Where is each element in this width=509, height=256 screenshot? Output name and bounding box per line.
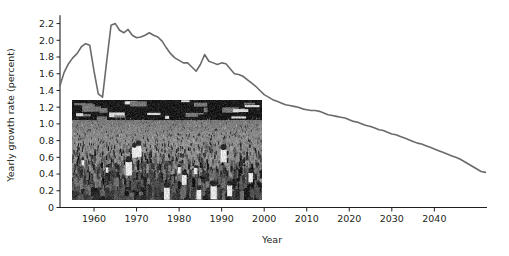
x-axis: 196019701980199020002010202020302040 xyxy=(60,208,487,224)
x-axis-tick-label: 2020 xyxy=(337,213,361,224)
x-axis-tick-label: 1970 xyxy=(124,213,148,224)
x-axis-tick-label: 2040 xyxy=(422,213,446,224)
x-axis-tick-label: 2030 xyxy=(380,213,404,224)
y-axis-tick-label: 0.6 xyxy=(39,152,54,163)
x-axis-tick-label: 2010 xyxy=(295,213,319,224)
crowd-photograph xyxy=(72,100,262,200)
y-axis-tick-label: 0.2 xyxy=(39,185,54,196)
x-axis-tick-label: 1980 xyxy=(167,213,191,224)
x-axis-tick-label: 1960 xyxy=(82,213,106,224)
y-axis-tick-label: 1.4 xyxy=(39,85,54,96)
y-axis-tick-label: 2.0 xyxy=(39,35,54,46)
y-axis-tick-label: 1.2 xyxy=(39,102,54,113)
y-axis-tick-label: 1.6 xyxy=(39,68,54,79)
y-axis-tick-label: 1.8 xyxy=(39,51,54,62)
y-axis-title: Yearly growth rate (percent) xyxy=(5,48,16,183)
x-axis-tick-label: 1990 xyxy=(210,213,234,224)
chart-figure: 00.20.40.60.81.01.21.41.61.82.02.2 19601… xyxy=(0,0,509,256)
y-axis: 00.20.40.60.81.01.21.41.61.82.02.2 xyxy=(39,15,60,213)
y-axis-tick-label: 1.0 xyxy=(39,118,54,129)
crowd-photograph-canvas xyxy=(72,100,262,200)
y-axis-tick-label: 2.2 xyxy=(39,18,54,29)
x-axis-title: Year xyxy=(261,234,282,245)
x-axis-tick-label: 2000 xyxy=(252,213,276,224)
y-axis-tick-label: 0 xyxy=(48,202,54,213)
y-axis-tick-label: 0.4 xyxy=(39,168,54,179)
y-axis-tick-label: 0.8 xyxy=(39,135,54,146)
